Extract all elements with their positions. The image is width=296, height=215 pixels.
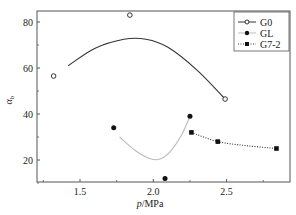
fit-curve-g7-2 [191,132,276,148]
svg-text:GL: GL [260,28,273,39]
data-point [163,176,168,181]
x-tick-label: 2.0 [147,186,160,197]
fit-curve-gl [120,116,190,160]
y-tick-label: 80 [23,17,33,28]
legend: G0 GL G7-2 [234,12,289,51]
fit-curve-g0 [68,38,225,99]
svg-text:G0: G0 [260,17,272,28]
data-point [216,139,221,144]
chart: 20406080 1.52.02.5 p/MPa αb G0 GL G7-2 [0,0,296,215]
data-point [111,125,116,130]
fit-curves [68,38,276,160]
y-tick-label: 60 [23,63,33,74]
data-point [189,130,194,135]
filled-square-marker-icon [245,42,249,46]
y-axis-label: αb [3,95,16,104]
data-point [223,97,228,102]
x-axis-label: p/MPa [136,198,164,209]
data-point [274,146,279,151]
svg-text:G7-2: G7-2 [260,39,281,50]
filled-circle-marker-icon [245,31,249,35]
open-circle-marker-icon [245,20,249,24]
y-tick-label: 40 [23,109,33,120]
data-point [187,114,192,119]
x-tick-label: 2.5 [220,186,233,197]
data-point [128,13,133,18]
y-tick-label: 20 [23,155,33,166]
data-point [51,74,56,79]
x-tick-label: 1.5 [74,186,87,197]
